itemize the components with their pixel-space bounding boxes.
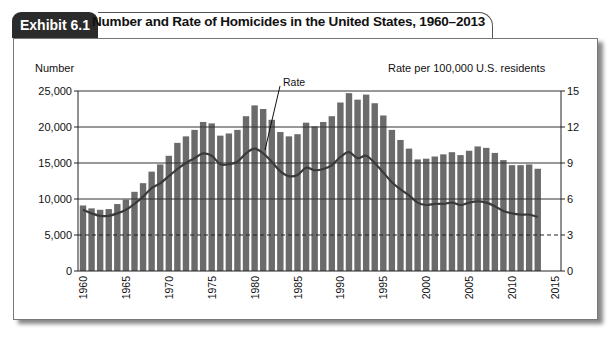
bar-1981 [260, 109, 266, 271]
bar-1990 [337, 103, 343, 271]
bar-2002 [440, 154, 446, 271]
bar-2000 [423, 159, 429, 271]
right-tick-label: 6 [567, 193, 573, 205]
x-tick-label: 1965 [120, 276, 132, 300]
x-tick-label: 1960 [77, 276, 89, 300]
bar-1992 [354, 100, 360, 271]
bar-2012 [526, 164, 532, 271]
bar-1985 [294, 134, 300, 271]
x-tick-label: 1995 [377, 276, 389, 300]
right-tick-label: 15 [567, 85, 579, 97]
bar-1999 [414, 159, 420, 271]
bar-1979 [243, 116, 249, 271]
bar-1980 [251, 105, 257, 271]
bar-1983 [277, 132, 283, 271]
x-tick-label: 2015 [549, 276, 561, 300]
bar-1962 [97, 210, 103, 271]
bar-2013 [535, 169, 541, 271]
bar-1994 [372, 103, 378, 271]
bar-2007 [483, 148, 489, 271]
right-tick-label: 9 [567, 157, 573, 169]
left-tick-label: 0 [66, 265, 72, 277]
bar-2006 [474, 146, 480, 271]
right-tick-label: 12 [567, 121, 579, 133]
x-tick-label: 2010 [506, 276, 518, 300]
chart-canvas: Rate05,00010,00015,00020,00025,000036912… [0, 0, 616, 342]
x-tick-label: 2000 [420, 276, 432, 300]
bar-1973 [191, 130, 197, 271]
bar-1998 [406, 149, 412, 271]
bar-2004 [457, 155, 463, 271]
bar-2008 [492, 153, 498, 271]
x-tick-label: 1975 [206, 276, 218, 300]
bar-1989 [329, 116, 335, 271]
bar-1960 [80, 205, 86, 271]
bar-2001 [432, 157, 438, 271]
bar-2009 [500, 160, 506, 271]
x-tick-label: 1985 [292, 276, 304, 300]
left-tick-label: 15,000 [38, 157, 72, 169]
bar-2011 [517, 165, 523, 271]
bar-1996 [389, 130, 395, 271]
left-tick-label: 20,000 [38, 121, 72, 133]
bar-1993 [363, 95, 369, 271]
bar-1997 [397, 140, 403, 271]
bar-1974 [200, 122, 206, 271]
bar-1991 [346, 93, 352, 271]
left-axis-title: Number [35, 62, 74, 74]
right-tick-label: 0 [567, 265, 573, 277]
bar-1988 [320, 122, 326, 271]
bar-1976 [217, 136, 223, 271]
bar-1971 [174, 143, 180, 271]
x-tick-label: 1990 [334, 276, 346, 300]
bar-1982 [269, 120, 275, 271]
left-tick-label: 10,000 [38, 193, 72, 205]
bar-2003 [449, 152, 455, 271]
bar-1995 [380, 115, 386, 271]
bar-2005 [466, 151, 472, 271]
x-tick-label: 1970 [163, 276, 175, 300]
bar-2010 [509, 165, 515, 271]
rate-annotation-label: Rate [283, 76, 305, 88]
bar-1972 [183, 136, 189, 271]
right-axis-title: Rate per 100,000 U.S. residents [388, 62, 546, 74]
bar-1963 [106, 209, 112, 271]
left-tick-label: 5,000 [44, 229, 72, 241]
left-tick-label: 25,000 [38, 85, 72, 97]
x-tick-label: 2005 [463, 276, 475, 300]
bar-1986 [303, 123, 309, 271]
right-tick-label: 3 [567, 229, 573, 241]
bar-1975 [209, 123, 215, 271]
x-tick-label: 1980 [249, 276, 261, 300]
bar-1977 [226, 133, 232, 271]
bar-1961 [88, 208, 94, 271]
bar-1984 [286, 136, 292, 271]
bar-1978 [234, 130, 240, 271]
